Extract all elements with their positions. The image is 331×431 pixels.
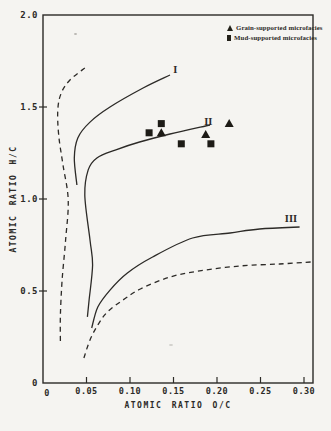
x-axis-title: ATOMIC RATIO O/C xyxy=(124,401,231,410)
curve-left-dashed-boundary xyxy=(58,68,85,342)
curve-kerogen-type-III xyxy=(92,227,300,328)
data-point-square xyxy=(178,140,185,147)
data-point-square xyxy=(207,140,214,147)
y-tick-label: 0.5 xyxy=(20,286,38,296)
y-tick-label: 0 xyxy=(32,378,38,388)
x-tick-label: 0.10 xyxy=(119,386,141,396)
x-tick-label: 0.20 xyxy=(206,386,228,396)
scan-speck xyxy=(74,33,77,35)
x-tick-label: 0.30 xyxy=(293,386,315,396)
x-tick-label: 0.25 xyxy=(249,386,271,396)
scan-speck xyxy=(169,344,173,346)
triangle-marker-icon xyxy=(227,25,233,31)
y-tick-label: 1.0 xyxy=(20,194,38,204)
y-axis-title: ATOMIC RATIO H/C xyxy=(9,145,18,252)
curve-lower-dashed-boundary xyxy=(84,262,312,358)
curve-label-II: II xyxy=(204,116,212,127)
legend-item-grain-supported: Grain-supported microfacies xyxy=(227,24,317,31)
curve-label-I: I xyxy=(173,64,177,75)
plot-border xyxy=(43,15,313,383)
y-tick-label: 1.5 xyxy=(20,102,38,112)
x-tick-label: 0.05 xyxy=(75,386,97,396)
curve-label-III: III xyxy=(285,213,297,224)
data-point-square xyxy=(146,129,153,136)
data-point-square xyxy=(158,120,165,127)
square-marker-icon xyxy=(227,35,231,41)
y-tick-label: 2.0 xyxy=(20,10,38,20)
x-tick-label: 0.15 xyxy=(162,386,184,396)
x-tick-label: 0 xyxy=(44,388,50,398)
legend-label: Mud-supported microfacies xyxy=(234,34,317,41)
legend-label: Grain-supported microfacies xyxy=(236,24,323,31)
data-point-triangle xyxy=(201,130,210,138)
data-point-triangle xyxy=(225,119,234,127)
plot-area: IIIIII xyxy=(0,0,331,431)
scanned-chart-figure: IIIIII 00.050.100.150.200.250.3000.51.01… xyxy=(0,0,331,431)
legend: Grain-supported microfacies Mud-supporte… xyxy=(227,24,317,44)
legend-item-mud-supported: Mud-supported microfacies xyxy=(227,34,317,41)
data-point-triangle xyxy=(157,128,166,136)
curve-kerogen-type-II xyxy=(85,125,210,317)
